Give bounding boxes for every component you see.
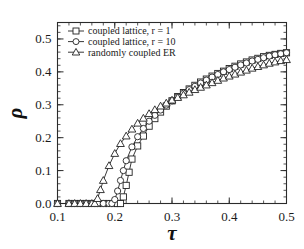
legend-label: coupled lattice, r = 10	[88, 36, 176, 47]
data-point-marker	[249, 58, 255, 64]
data-point-marker	[266, 53, 272, 59]
x-tick-label: 0.4	[221, 209, 238, 224]
y-tick-label: 0.2	[35, 130, 51, 145]
data-point-marker	[120, 167, 126, 173]
x-tick-label: 0.5	[278, 209, 294, 224]
data-point-marker	[238, 62, 244, 68]
chart-figure: 0.10.20.30.40.5 0.00.10.20.30.40.5 coupl…	[0, 0, 304, 249]
legend-marker-square	[73, 28, 79, 34]
data-point-marker	[135, 134, 141, 140]
y-tick-label: 0.0	[35, 196, 51, 211]
data-point-marker	[123, 158, 129, 164]
data-point-marker	[135, 143, 141, 149]
x-axis-title: τ	[167, 221, 177, 245]
data-point-marker	[140, 133, 146, 139]
legend-marker-circle	[73, 39, 79, 45]
y-axis-title: ρ	[3, 107, 27, 119]
legend-label: coupled lattice, r = 1	[88, 25, 171, 36]
data-point-marker	[272, 52, 278, 58]
y-tick-label: 0.3	[35, 97, 51, 112]
data-point-marker	[255, 56, 261, 62]
data-point-marker	[129, 156, 135, 162]
data-point-marker	[126, 169, 132, 175]
y-tick-label: 0.1	[35, 163, 51, 178]
y-tick-label: 0.4	[35, 64, 52, 79]
y-tick-label: 0.5	[35, 31, 51, 46]
data-point-marker	[120, 194, 126, 200]
line-chart: 0.10.20.30.40.5 0.00.10.20.30.40.5 coupl…	[0, 0, 304, 249]
data-point-marker	[261, 55, 267, 61]
x-tick-label: 0.2	[107, 209, 123, 224]
legend-label: randomly coupled ER	[88, 47, 176, 58]
data-point-marker	[115, 188, 121, 194]
data-point-marker	[117, 200, 123, 206]
data-point-marker	[123, 182, 129, 188]
x-tick-label: 0.1	[49, 209, 65, 224]
data-point-marker	[117, 177, 123, 183]
data-point-marker	[129, 144, 135, 150]
data-point-marker	[112, 196, 118, 202]
data-point-marker	[243, 60, 249, 66]
